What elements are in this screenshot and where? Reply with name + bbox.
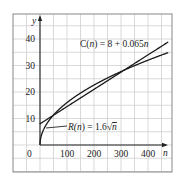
y-tick-label: 10 — [26, 114, 36, 124]
y-tick-label: 40 — [26, 34, 36, 44]
x-axis-label: n — [163, 148, 168, 158]
r-function-label: R(n) = 1.6√n — [67, 122, 117, 133]
y-tick-label: 30 — [26, 61, 36, 71]
c-linear-curve — [40, 42, 168, 124]
x-tick-label: 300 — [114, 149, 129, 159]
y-tick-label: 20 — [26, 87, 36, 97]
chart: 10020030040010203040 y n 0 C(n) = 8 + 0.… — [0, 0, 183, 179]
x-tick-label: 400 — [141, 149, 156, 159]
y-axis-label: y — [31, 16, 37, 26]
origin-label: 0 — [27, 149, 32, 159]
c-function-label: C(n) = 8 + 0.065n — [80, 39, 149, 50]
x-axis-arrow-icon — [162, 143, 168, 147]
r-label-leader — [46, 126, 67, 128]
x-tick-label: 200 — [87, 149, 102, 159]
x-tick-label: 100 — [60, 149, 75, 159]
y-axis-arrow-icon — [38, 15, 42, 21]
tick-labels: 10020030040010203040 — [26, 34, 156, 159]
